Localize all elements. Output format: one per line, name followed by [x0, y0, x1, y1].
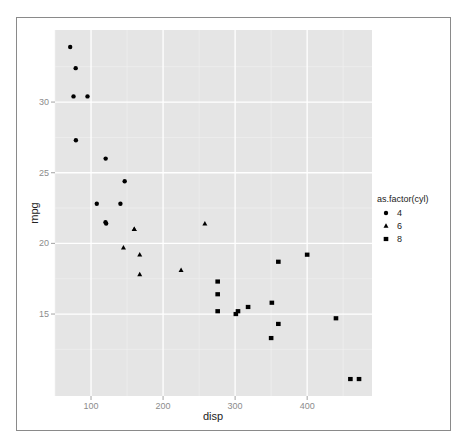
- legend: as.factor(cyl) 468: [377, 194, 429, 244]
- data-point-circle: [71, 94, 75, 98]
- y-axis-title: mpg: [28, 202, 40, 223]
- data-point-circle: [104, 221, 108, 225]
- data-point-square: [234, 312, 239, 316]
- data-point-circle: [68, 45, 72, 49]
- x-axis-title: disp: [203, 410, 223, 422]
- legend-circle-icon: [384, 211, 388, 215]
- data-point-square: [305, 253, 310, 257]
- data-point-square: [348, 377, 353, 381]
- data-point-circle: [95, 202, 99, 206]
- x-tick-label: 400: [300, 401, 315, 411]
- data-point-square: [215, 292, 220, 296]
- data-point-square: [357, 377, 362, 381]
- data-point-square: [270, 301, 275, 305]
- data-point-square: [276, 260, 281, 264]
- data-point-square: [215, 279, 220, 283]
- scatter-chart: 100200300400 15202530 disp mpg as.factor…: [0, 0, 469, 448]
- data-point-square: [215, 309, 220, 313]
- data-point-square: [269, 336, 274, 340]
- data-point-circle: [103, 156, 107, 160]
- y-tick-label: 20: [39, 238, 49, 248]
- data-point-circle: [85, 94, 89, 98]
- legend-triangle-icon: [384, 223, 389, 228]
- y-tick-label: 15: [39, 309, 49, 319]
- data-point-square: [246, 305, 251, 309]
- legend-title: as.factor(cyl): [377, 194, 429, 204]
- legend-square-icon: [384, 237, 389, 241]
- data-point-square: [276, 322, 281, 326]
- legend-label: 4: [397, 208, 402, 218]
- data-point-circle: [118, 202, 122, 206]
- legend-label: 6: [397, 221, 402, 231]
- y-tick-label: 25: [39, 168, 49, 178]
- data-point-square: [334, 316, 339, 320]
- data-point-circle: [74, 138, 78, 142]
- y-axis: 15202530: [39, 97, 55, 319]
- legend-label: 8: [397, 234, 402, 244]
- data-point-circle: [73, 66, 77, 70]
- y-tick-label: 30: [39, 97, 49, 107]
- plot-panel: [55, 30, 372, 396]
- x-tick-label: 200: [156, 401, 171, 411]
- x-axis: 100200300400: [84, 396, 315, 411]
- data-point-circle: [122, 179, 126, 183]
- x-tick-label: 100: [84, 401, 99, 411]
- x-tick-label: 300: [228, 401, 243, 411]
